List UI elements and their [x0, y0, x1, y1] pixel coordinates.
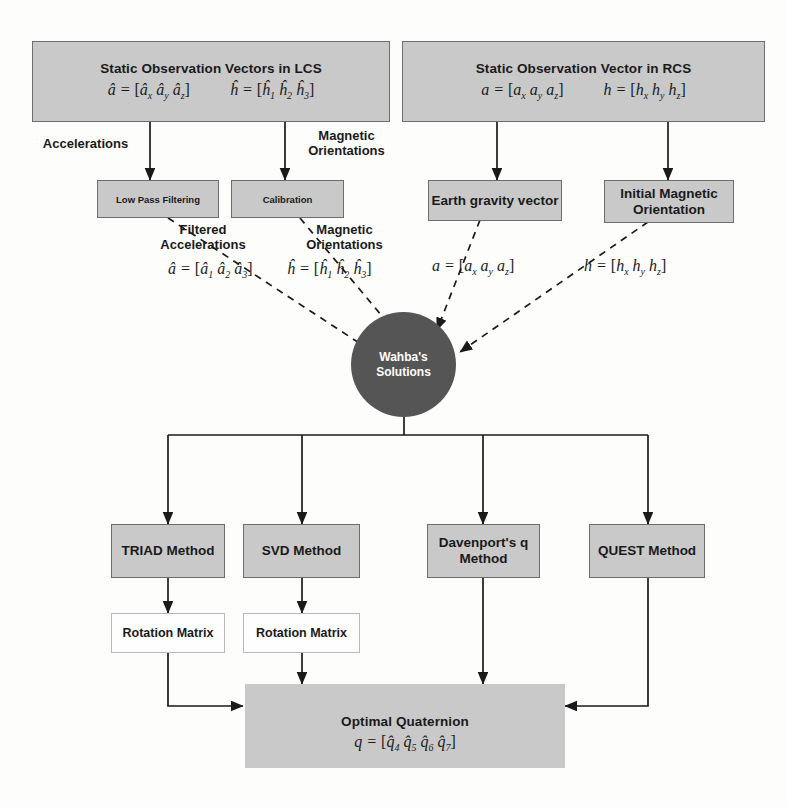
wire-magnetic-to-hub	[460, 222, 648, 352]
label-magnetic-orientations-2: Magnetic Orientations	[292, 222, 397, 253]
rcs-equations: a = [ax ay az] h = [hx hy hz]	[481, 81, 686, 101]
wire-quest-to-output	[565, 578, 648, 706]
lcs-heading: Static Observation Vectors in LCS	[100, 61, 322, 76]
lcs-observation-box: Static Observation Vectors in LCS â = [â…	[32, 41, 390, 122]
method-box-quest: QUEST Method	[589, 524, 705, 578]
lcs-mag-equation: ĥ = [ĥ1 ĥ2 ĥ3]	[230, 81, 314, 101]
filtered-accel-equation: â = [â1 â2 â3]	[168, 260, 252, 280]
initial-magnetic-orientation-label: Initial Magnetic Orientation	[605, 186, 733, 217]
wire-rotmat1-to-output	[168, 653, 243, 706]
method-label-triad: TRIAD Method	[122, 543, 215, 559]
rcs-observation-box: Static Observation Vector in RCS a = [ax…	[402, 41, 765, 122]
rotation-matrix-box-1: Rotation Matrix	[111, 613, 225, 653]
earth-gravity-vector-box: Earth gravity vector	[428, 180, 562, 221]
low-pass-filtering-box: Low Pass Filtering	[97, 180, 219, 218]
rotation-matrix-label-1: Rotation Matrix	[123, 626, 214, 640]
ref-mag-equation: h = [hx hy hz]	[584, 257, 666, 277]
calibration-box: Calibration	[231, 180, 344, 218]
method-label-davenport: Davenport's q Method	[428, 535, 539, 566]
hub-line-2: Solutions	[376, 365, 431, 380]
flowchart-canvas: Static Observation Vectors in LCS â = [â…	[0, 0, 787, 807]
low-pass-filtering-label: Low Pass Filtering	[116, 194, 200, 205]
lcs-equations: â = [âx ây âz] ĥ = [ĥ1 ĥ2 ĥ3]	[108, 81, 315, 101]
optimal-quaternion-heading: Optimal Quaternion	[341, 714, 469, 729]
rotation-matrix-box-2: Rotation Matrix	[243, 613, 360, 653]
label-magnetic-orientations: Magnetic Orientations	[294, 128, 399, 159]
ref-accel-equation: a = [ax ay az]	[432, 257, 514, 277]
method-label-svd: SVD Method	[262, 543, 342, 559]
rcs-mag-equation: h = [hx hy hz]	[604, 81, 686, 101]
lcs-accel-equation: â = [âx ây âz]	[108, 81, 190, 101]
initial-magnetic-orientation-box: Initial Magnetic Orientation	[604, 180, 734, 223]
rcs-accel-equation: a = [ax ay az]	[481, 81, 563, 101]
label-filtered-accelerations: Filtered Accelerations	[148, 222, 258, 253]
mag-orient-equation: ĥ = [ĥ1 ĥ2 ĥ3]	[287, 260, 371, 280]
label-accelerations: Accelerations	[28, 136, 143, 151]
method-box-davenport: Davenport's q Method	[427, 524, 540, 578]
optimal-quaternion-equation: q = [q̂4 q̂5 q̂6 q̂7]	[354, 733, 455, 753]
method-label-quest: QUEST Method	[598, 543, 696, 559]
calibration-label: Calibration	[263, 194, 313, 205]
rcs-heading: Static Observation Vector in RCS	[476, 61, 692, 76]
rotation-matrix-label-2: Rotation Matrix	[256, 626, 347, 640]
optimal-quaternion-box: Optimal Quaternion q = [q̂4 q̂5 q̂6 q̂7]	[245, 684, 565, 768]
method-box-svd: SVD Method	[243, 524, 360, 578]
hub-line-1: Wahba's	[379, 350, 427, 365]
earth-gravity-vector-label: Earth gravity vector	[432, 193, 559, 209]
method-box-triad: TRIAD Method	[111, 524, 225, 578]
wahbas-solutions-hub: Wahba's Solutions	[351, 312, 456, 417]
